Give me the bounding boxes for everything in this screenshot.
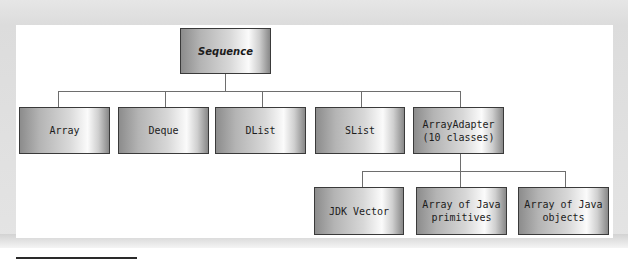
node-dlist: DList xyxy=(215,107,306,154)
connector-slist xyxy=(361,91,362,107)
connector-dlist xyxy=(262,91,263,107)
connector-root-down xyxy=(225,73,226,91)
node-array-of-java-primitives: Array of Java primitives xyxy=(416,187,507,235)
node-deque: Deque xyxy=(118,107,209,154)
node-slist: SList xyxy=(315,107,405,154)
connector-arrayadapter xyxy=(460,91,461,107)
node-arrayadapter: ArrayAdapter (10 classes) xyxy=(413,107,504,154)
connector-level1-bar xyxy=(58,91,461,92)
connector-arrayadapter-down xyxy=(460,153,461,171)
connector-array xyxy=(58,91,59,107)
connector-deque xyxy=(165,91,166,107)
node-sequence: Sequence xyxy=(180,28,271,74)
node-jdk-vector: JDK Vector xyxy=(314,187,404,235)
connector-java-objects xyxy=(565,171,566,187)
connector-level2-bar xyxy=(362,171,566,172)
node-array: Array xyxy=(19,107,110,154)
node-array-of-java-objects: Array of Java objects xyxy=(518,187,609,235)
connector-jdk-vector xyxy=(362,171,363,187)
connector-java-primitives xyxy=(460,171,461,187)
footer-rule xyxy=(16,257,137,259)
